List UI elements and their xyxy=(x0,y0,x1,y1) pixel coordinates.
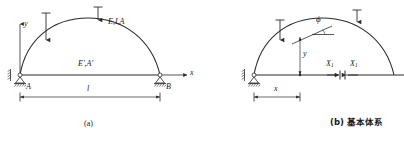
support-b-left-ground-hatch xyxy=(249,84,261,87)
span-length-label: l xyxy=(87,85,89,93)
panel-b-group xyxy=(242,10,404,102)
redundant-force-x1-left-label: X1 xyxy=(326,60,334,69)
arch-section-properties-label: E,I,A xyxy=(108,18,124,26)
engineering-figure: y x E,I,A E',A' A B l (a) ϕ y x X1 X1 (b… xyxy=(0,0,404,142)
support-b-triangle xyxy=(156,77,165,83)
tangent-line-phi xyxy=(292,26,332,44)
arch-rib-curve-b xyxy=(254,18,394,75)
support-b-label: B xyxy=(166,83,171,91)
tie-section-properties-label: E',A' xyxy=(78,60,93,68)
support-a-label: A xyxy=(26,83,31,91)
redundant-force-x1-right-label: X1 xyxy=(350,60,358,69)
x-axis-label: x xyxy=(190,69,194,77)
phi-angle-arc xyxy=(323,30,326,35)
caption-a: (a) xyxy=(84,120,93,128)
caption-b: (b) 基本体系 xyxy=(330,118,383,127)
abscissa-label: x xyxy=(274,85,278,93)
support-a-ground-hatch xyxy=(15,84,27,87)
y-axis-label: y xyxy=(24,20,28,28)
rise-base-point xyxy=(299,74,301,76)
panel-a-group xyxy=(8,7,187,102)
support-b-left-wall-hatch xyxy=(242,70,245,80)
support-b-ground-hatch xyxy=(155,84,167,87)
support-a-triangle xyxy=(16,77,25,83)
support-b-left-triangle xyxy=(250,77,259,83)
phi-angle-label: ϕ xyxy=(316,15,321,24)
support-a-wall-hatch xyxy=(8,70,11,80)
rise-ordinate-label: y xyxy=(303,50,307,58)
